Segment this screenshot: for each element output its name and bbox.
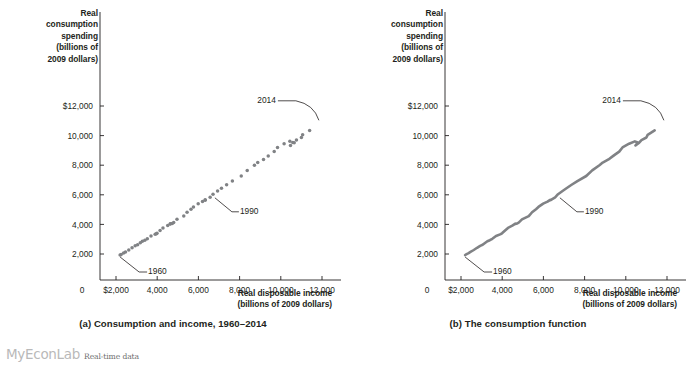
data-point-1982 [172, 221, 176, 225]
callout-leader-b-1960 [465, 257, 492, 272]
data-point-1971 [146, 237, 150, 241]
y-axis-ticks-b: 2,0004,0006,0008,00010,000$12,000 [408, 101, 449, 259]
data-point-1993 [211, 192, 215, 196]
callout-label-b-2014: 2014 [602, 95, 621, 105]
callout-leader-a-1990 [215, 198, 239, 212]
data-point-1976 [158, 229, 162, 233]
x-axis-title-b: Real disposable income(billions of 2009 … [497, 288, 677, 310]
data-point-2011 [295, 138, 299, 142]
data-point-1972 [149, 234, 153, 238]
callout-leader-b-2014 [623, 101, 664, 121]
data-point-2001 [256, 161, 260, 165]
data-point-1983 [175, 218, 179, 222]
data-point-1994 [216, 189, 220, 193]
data-point-2000 [253, 163, 257, 167]
panel-caption-b: (b) The consumption function [345, 318, 691, 329]
plot-area-a: 2,0004,0006,0008,00010,000$12,0000$2,000… [0, 0, 346, 300]
y-axis-ticks-a: 2,0004,0006,0008,00010,000$12,000 [63, 101, 104, 259]
y-tick-label-a-6000: 6,000 [72, 190, 93, 200]
data-point-1992 [208, 196, 212, 200]
y-tick-label-b-4000: 4,000 [417, 220, 438, 230]
x-axis-title-b-line-1: Real disposable income [497, 288, 677, 299]
x-axis-title-b-line-2: (billions of 2009 dollars) [497, 299, 677, 310]
y-tick-label-b-6000: 6,000 [417, 190, 438, 200]
data-point-2003 [266, 154, 270, 158]
data-point-1997 [231, 179, 235, 183]
data-point-1965 [130, 246, 134, 250]
data-line-b [465, 130, 655, 255]
panel-caption-a: (a) Consumption and income, 1960–2014 [0, 318, 346, 329]
data-point-1996 [225, 183, 229, 187]
callout-leader-a-1960 [120, 257, 147, 272]
data-points-a [118, 129, 311, 257]
callout-label-b-1990: 1990 [585, 206, 604, 216]
data-point-1964 [127, 248, 131, 252]
callout-leader-a-2014 [278, 101, 319, 121]
myeconlab-logo: MyEconLab [6, 346, 80, 362]
chart-panel-a: Realconsumptionspending(billions of2009 … [0, 0, 346, 340]
y-tick-label-b-8000: 8,000 [417, 160, 438, 170]
chart-panel-b: Realconsumptionspending(billions of2009 … [345, 0, 691, 340]
callout-label-a-1960: 1960 [148, 266, 167, 276]
y-tick-label-a-12000: $12,000 [63, 101, 94, 111]
x-tick-label-b-0: 0 [425, 285, 430, 295]
data-point-2004 [272, 150, 276, 154]
data-point-1998 [240, 174, 244, 178]
data-point-2006 [282, 142, 286, 146]
annotations-b: 196019902014 [465, 95, 664, 276]
data-point-2002 [262, 158, 266, 162]
x-axis-title-a-line-2: (billions of 2009 dollars) [152, 299, 332, 310]
data-point-1987 [192, 205, 196, 209]
annotations-a: 196019902014 [120, 95, 319, 276]
data-point-1985 [185, 211, 189, 215]
real-time-data-note: Real-time data [84, 352, 139, 361]
y-tick-label-a-8000: 8,000 [72, 160, 93, 170]
axes-a [100, 12, 341, 280]
data-point-2009 [289, 144, 293, 148]
consumption-function-line-b [465, 130, 655, 255]
data-point-1984 [182, 214, 186, 218]
callout-label-a-1990: 1990 [240, 206, 259, 216]
x-axis-title-a: Real disposable income(billions of 2009 … [152, 288, 332, 310]
data-point-2013 [301, 133, 305, 137]
x-tick-label-a-2000: $2,000 [103, 285, 129, 295]
data-point-1995 [220, 187, 224, 191]
y-tick-label-a-4000: 4,000 [72, 220, 93, 230]
footer: MyEconLab Real-time data [6, 346, 139, 362]
y-tick-label-a-2000: 2,000 [72, 249, 93, 259]
plot-area-b: 2,0004,0006,0008,00010,000$12,0000$2,000… [345, 0, 691, 300]
data-point-2005 [276, 146, 280, 150]
line-chart-b: 2,0004,0006,0008,00010,000$12,0000$2,000… [345, 0, 691, 300]
axes-b [445, 12, 686, 280]
scatter-chart-a: 2,0004,0006,0008,00010,000$12,0000$2,000… [0, 0, 346, 300]
data-point-1991 [203, 199, 207, 203]
x-tick-label-b-2000: $2,000 [448, 285, 474, 295]
y-tick-label-b-10000: 10,000 [412, 131, 438, 141]
data-point-1988 [196, 202, 200, 206]
callout-label-a-2014: 2014 [257, 95, 276, 105]
data-point-1963 [124, 250, 128, 254]
data-point-1999 [245, 169, 249, 173]
callout-leader-b-1990 [560, 198, 584, 212]
data-point-2010 [292, 141, 296, 145]
x-axis-title-a-line-1: Real disposable income [152, 288, 332, 299]
y-tick-label-b-2000: 2,000 [417, 249, 438, 259]
data-point-1977 [161, 226, 165, 230]
y-tick-label-a-10000: 10,000 [67, 131, 93, 141]
y-tick-label-b-12000: $12,000 [408, 101, 439, 111]
callout-label-b-1960: 1960 [493, 266, 512, 276]
data-point-2014 [308, 129, 312, 133]
data-point-1975 [155, 232, 159, 236]
x-tick-label-a-0: 0 [80, 285, 85, 295]
figure-root: Realconsumptionspending(billions of2009 … [0, 0, 691, 369]
